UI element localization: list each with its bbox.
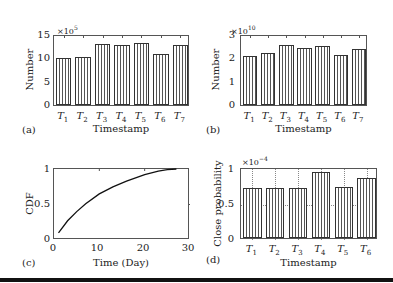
ylabel-a: Number xyxy=(24,45,35,95)
tick-mark xyxy=(286,36,287,38)
panel-label-d: (d) xyxy=(206,254,220,265)
plot-area-b xyxy=(240,35,367,106)
tick-mark xyxy=(103,36,104,38)
xtick-c-30: 30 xyxy=(178,243,198,253)
bar-T7 xyxy=(352,49,367,105)
ytick-c-1: 1 xyxy=(28,164,50,174)
plot-area-d xyxy=(240,168,377,239)
tick-mark xyxy=(161,36,162,38)
xlabel-b: Timestamp xyxy=(240,123,367,134)
tick-mark xyxy=(180,36,181,38)
plot-area-c xyxy=(53,168,189,239)
tick-mark xyxy=(122,36,123,38)
tick-mark xyxy=(268,36,269,38)
cdf-curve xyxy=(54,169,190,240)
ylabel-d: Close probability xyxy=(212,159,223,249)
ylabel-b: Number xyxy=(210,45,221,95)
ytick-a-15: 15 xyxy=(28,30,50,40)
xtick-c-10: 10 xyxy=(87,243,107,253)
tick-mark xyxy=(323,36,324,38)
tick-mark xyxy=(341,36,342,38)
xtick-T3: T3 xyxy=(287,244,307,258)
bar-T3 xyxy=(279,45,294,105)
bar-T2 xyxy=(266,188,284,238)
ylabel-c: CDF xyxy=(24,179,35,229)
bar-T1 xyxy=(56,58,72,105)
bar-T2 xyxy=(261,53,276,105)
bar-T5 xyxy=(335,187,353,238)
xtick-c-0: 0 xyxy=(43,243,63,253)
xtick-T6: T6 xyxy=(356,244,376,258)
bar-T7 xyxy=(173,45,189,105)
ytick-b-3: 3 xyxy=(213,30,235,40)
tick-mark xyxy=(250,36,251,38)
plot-area-a xyxy=(53,35,189,106)
xtick-T5: T5 xyxy=(333,244,353,258)
xtick-T2: T2 xyxy=(264,244,284,258)
xtick-T4: T4 xyxy=(310,244,330,258)
bottom-rule xyxy=(0,278,393,282)
bar-T3 xyxy=(95,44,111,105)
tick-mark xyxy=(64,36,65,38)
xtick-c-20: 20 xyxy=(133,243,153,253)
xlabel-c: Time (Day) xyxy=(53,257,189,268)
bar-T1 xyxy=(243,188,261,238)
bar-T4 xyxy=(114,45,130,105)
bar-T5 xyxy=(134,43,150,105)
panel-label-b: (b) xyxy=(206,124,220,135)
y-multiplier-a: ×105 xyxy=(57,24,78,36)
bar-T5 xyxy=(315,46,330,105)
bar-T1 xyxy=(243,56,258,105)
tick-mark xyxy=(359,36,360,38)
xtick-T1: T1 xyxy=(241,244,261,258)
bar-T3 xyxy=(289,188,307,238)
ytick-a-0: 0 xyxy=(28,100,50,110)
bar-T4 xyxy=(312,172,330,238)
panel-label-c: (c) xyxy=(22,257,35,268)
bar-T4 xyxy=(297,48,312,105)
tick-mark xyxy=(305,36,306,38)
bar-T6 xyxy=(334,55,349,105)
xlabel-d: Timestamp xyxy=(240,257,377,268)
bar-T6 xyxy=(357,178,375,238)
tick-mark xyxy=(83,36,84,38)
ytick-b-0: 0 xyxy=(213,100,235,110)
bar-T2 xyxy=(75,57,91,105)
xlabel-a: Timestamp xyxy=(53,123,189,134)
y-multiplier-d: ×10−4 xyxy=(242,155,268,167)
tick-mark xyxy=(141,36,142,38)
panel-label-a: (a) xyxy=(22,124,36,135)
bar-T6 xyxy=(153,54,169,105)
